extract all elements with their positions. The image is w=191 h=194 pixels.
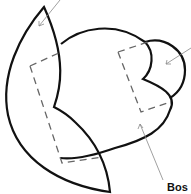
body-label: Bos (167, 181, 188, 193)
diagram-figure (0, 0, 191, 194)
left-dashed-region (30, 52, 103, 163)
bottom-right-arrowhead (138, 124, 143, 129)
left-petal-outline (6, 7, 110, 192)
diagram-canvas: Bos (0, 0, 191, 194)
central-body-outline (60, 29, 172, 159)
